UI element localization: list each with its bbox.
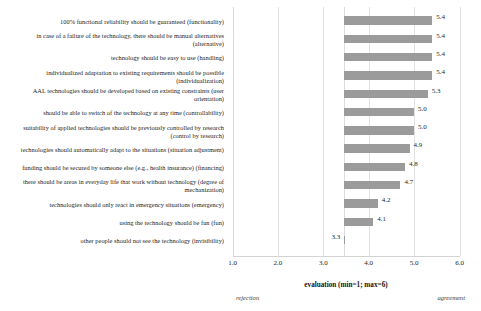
- bar-row[interactable]: 4.2: [233, 195, 460, 213]
- bar-row[interactable]: 4.9: [233, 140, 460, 158]
- bar-value-label: 5.4: [436, 50, 445, 58]
- category-label: AAL technologies should be developed bas…: [6, 87, 224, 103]
- chart-page: 100% functional reliability should be gu…: [0, 0, 481, 311]
- bar-row[interactable]: 5.0: [233, 104, 460, 122]
- x-tick-label: 4.0: [364, 259, 373, 267]
- category-label: other people should not see the technolo…: [6, 237, 224, 245]
- category-label: funding should be secured by someone els…: [6, 164, 224, 172]
- bar-value-label: 4.1: [377, 215, 386, 223]
- bar-value-label: 4.7: [405, 178, 414, 186]
- scale-anchor-agreement: agreement: [437, 294, 465, 301]
- bar[interactable]: [344, 16, 432, 24]
- bar-value-label: 5.0: [418, 123, 427, 131]
- bar[interactable]: [344, 199, 378, 207]
- bar-row[interactable]: 3.3: [233, 232, 460, 250]
- x-tick-label: 5.0: [410, 259, 419, 267]
- category-label: technologies should automatically adapt …: [6, 146, 224, 154]
- bar-row[interactable]: 4.1: [233, 213, 460, 231]
- bar-value-label: 5.3: [432, 87, 441, 95]
- bar-value-label: 4.9: [414, 141, 423, 149]
- bar[interactable]: [344, 218, 373, 226]
- bar-value-label: 3.3: [322, 233, 340, 241]
- gridline-6.0: [460, 7, 461, 256]
- bar-row[interactable]: 5.4: [233, 67, 460, 85]
- bar-row[interactable]: 5.0: [233, 122, 460, 140]
- bar[interactable]: [344, 236, 345, 244]
- bar[interactable]: [344, 108, 414, 116]
- bar-row[interactable]: 5.3: [233, 85, 460, 103]
- category-label: there should be areas in everyday life t…: [6, 178, 224, 194]
- scale-anchor-rejection: rejection: [236, 294, 259, 301]
- bar-value-label: 5.4: [436, 13, 445, 21]
- bar-row[interactable]: 4.8: [233, 158, 460, 176]
- x-tick-label: 3.0: [319, 259, 328, 267]
- x-axis-line: [233, 256, 460, 257]
- bar[interactable]: [344, 144, 409, 152]
- bar-row[interactable]: 4.7: [233, 177, 460, 195]
- x-tick-label: 1.0: [228, 259, 237, 267]
- bar[interactable]: [344, 126, 414, 134]
- bar[interactable]: [344, 35, 432, 43]
- category-label: using the technology should be fun (fun): [6, 219, 224, 227]
- category-label: suitability of applied technologies shou…: [6, 124, 224, 140]
- bar-value-label: 4.2: [382, 196, 391, 204]
- bar[interactable]: [344, 53, 432, 61]
- category-label: technology should be easy to use (handli…: [6, 54, 224, 62]
- bar-value-label: 5.0: [418, 105, 427, 113]
- bar-row[interactable]: 5.4: [233, 49, 460, 67]
- category-label: individualized adaptation to existing re…: [6, 69, 224, 85]
- bar[interactable]: [344, 181, 400, 189]
- bar-row[interactable]: 5.4: [233, 30, 460, 48]
- x-axis-title: evaluation (min=1; max=6): [233, 281, 460, 289]
- bar[interactable]: [344, 71, 432, 79]
- bar[interactable]: [344, 163, 405, 171]
- bar-row[interactable]: 5.4: [233, 12, 460, 30]
- category-label-column: 100% functional reliability should be gu…: [0, 0, 226, 256]
- x-tick-label: 2.0: [274, 259, 283, 267]
- category-label: technologies should only react in emerge…: [6, 201, 224, 209]
- bar-value-label: 5.4: [436, 68, 445, 76]
- category-label: should be able to switch of the technolo…: [6, 109, 224, 117]
- category-label: 100% functional reliability should be gu…: [6, 18, 224, 26]
- x-tick-label: 6.0: [455, 259, 464, 267]
- category-label: in case of a failure of the technology, …: [6, 32, 224, 48]
- bar-value-label: 4.8: [409, 160, 418, 168]
- bar[interactable]: [344, 90, 428, 98]
- bar-value-label: 5.4: [436, 32, 445, 40]
- plot-area: 5.45.45.45.45.35.05.04.94.84.74.24.13.3: [233, 7, 460, 256]
